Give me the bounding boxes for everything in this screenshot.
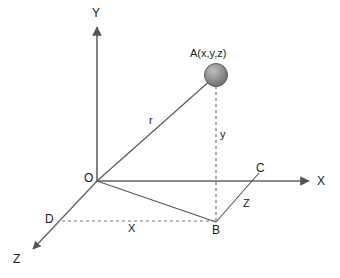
height-label: y <box>220 128 226 140</box>
y-axis-label: Y <box>92 6 100 20</box>
point-a-label: A(x,y,z) <box>190 47 226 59</box>
x-axis-label: X <box>317 174 325 188</box>
point-b-label: B <box>212 223 220 237</box>
depth-label: Z <box>243 197 250 209</box>
diagram-canvas: Y X Z O A(x,y,z) B C D r y Z X <box>0 0 340 278</box>
radius-segment-oa <box>97 79 212 181</box>
point-c-label: C <box>256 161 265 175</box>
radius-label: r <box>149 114 153 126</box>
point-d-label: D <box>45 212 54 226</box>
projection-segment-ob <box>97 181 216 222</box>
point-a-sphere <box>205 64 228 87</box>
z-axis-label: Z <box>13 252 20 266</box>
z-axis-line <box>33 181 97 249</box>
origin-label: O <box>84 171 93 185</box>
width-label: X <box>128 222 136 234</box>
coordinate-diagram: Y X Z O A(x,y,z) B C D r y Z X <box>0 0 340 278</box>
